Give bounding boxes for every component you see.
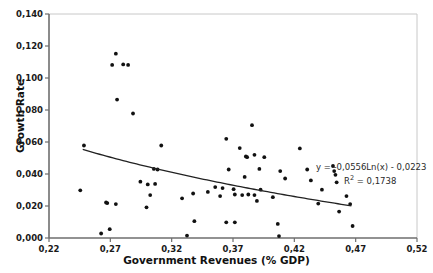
data-point (131, 112, 135, 116)
data-point (351, 224, 355, 228)
trendline-equation-annotation: y = -0,0556Ln(x) - 0,0223 (316, 162, 426, 172)
data-point (255, 199, 259, 203)
data-point (224, 137, 228, 141)
data-point (227, 168, 231, 172)
data-point (224, 220, 228, 224)
data-point (114, 52, 118, 56)
data-point (138, 180, 142, 184)
data-point (148, 193, 152, 197)
r-squared-value: = 0,1738 (354, 176, 396, 186)
data-point (238, 146, 242, 150)
data-point (121, 63, 125, 67)
x-axis-title: Government Revenues (% GDP) (0, 254, 433, 266)
data-point (82, 144, 86, 148)
data-point (334, 173, 338, 177)
data-point (185, 234, 189, 238)
x-axis-tick-label: 0,47 (331, 244, 381, 254)
data-point (78, 188, 82, 192)
scatter-points (78, 52, 354, 238)
data-point (146, 183, 150, 187)
data-point (305, 168, 309, 172)
data-point (145, 205, 149, 209)
data-point (262, 155, 266, 159)
x-axis-tick-label: 0,32 (147, 244, 197, 254)
data-point (105, 201, 109, 205)
scatter-chart: 0,0000,0200,0400,0600,0800,1000,1200,140… (0, 0, 433, 273)
data-point (257, 167, 261, 171)
logarithmic-trendline (83, 149, 352, 205)
data-point (232, 187, 236, 191)
data-point (218, 194, 222, 198)
data-point (298, 147, 302, 151)
y-axis-tick-label: 0,020 (0, 201, 43, 211)
data-point (192, 219, 196, 223)
data-point (110, 63, 114, 67)
data-point (335, 180, 339, 184)
data-point (320, 188, 324, 192)
data-point (206, 190, 210, 194)
r-squared-annotation: R2 = 0,1738 (344, 174, 396, 186)
data-point (180, 196, 184, 200)
y-axis-title: Growth Rate (14, 56, 26, 176)
data-point (240, 193, 244, 197)
data-point (114, 202, 118, 206)
data-point (245, 155, 249, 159)
data-point (277, 234, 281, 238)
data-point (253, 193, 257, 197)
data-point (213, 185, 217, 189)
y-axis-tick-label: 0,000 (0, 233, 43, 243)
x-axis-tick-label: 0,37 (208, 244, 258, 254)
data-point (243, 175, 247, 179)
data-point (108, 227, 112, 231)
plot-frame (49, 14, 417, 238)
y-axis-tick-label: 0,140 (0, 9, 43, 19)
data-point (283, 177, 287, 181)
data-point (191, 192, 195, 196)
data-point (221, 186, 225, 190)
data-point (276, 222, 280, 226)
plot-area (0, 0, 433, 273)
data-point (233, 220, 237, 224)
data-point (246, 193, 250, 197)
y-axis-tick-label: 0,120 (0, 41, 43, 51)
data-point (159, 144, 163, 148)
x-axis-tick-label: 0,42 (269, 244, 319, 254)
data-point (316, 202, 320, 206)
x-axis-tick-label: 0,22 (24, 244, 74, 254)
data-point (126, 63, 130, 67)
data-point (337, 210, 341, 214)
data-point (309, 179, 313, 183)
x-axis-tick-label: 0,52 (392, 244, 433, 254)
data-point (271, 195, 275, 199)
data-point (115, 98, 119, 102)
data-point (278, 169, 282, 173)
data-point (253, 153, 257, 157)
x-axis-tick-label: 0,27 (85, 244, 135, 254)
data-point (250, 123, 254, 127)
data-point (153, 182, 157, 186)
data-point (99, 232, 103, 236)
data-point (233, 193, 237, 197)
data-point (345, 194, 349, 198)
